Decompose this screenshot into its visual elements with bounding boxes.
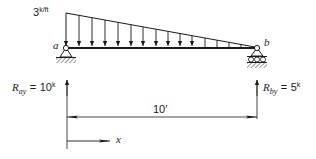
load-unit: k/ft — [39, 6, 48, 13]
reaction-a-unit: k — [52, 81, 56, 88]
reaction-b-value: 5 — [291, 81, 297, 93]
ground-hatch — [247, 63, 267, 68]
load-envelope-top — [66, 13, 255, 47]
load-magnitude-label: 3k/ft — [33, 7, 48, 18]
reaction-a-subscript: ay — [19, 87, 27, 96]
reaction-a-value: 10 — [40, 81, 52, 93]
reaction-a-label: Ray = 10k — [12, 82, 55, 96]
reaction-b-label: Rby = 5k — [263, 82, 300, 96]
reaction-b-unit: k — [297, 81, 301, 88]
beam-diagram — [0, 0, 316, 159]
reaction-b-subscript: by — [270, 87, 278, 96]
distributed-load — [66, 13, 255, 47]
reaction-a-symbol: R — [12, 81, 19, 93]
roller-icon — [261, 57, 266, 62]
roller-icon — [255, 57, 260, 62]
ground-hatch — [56, 58, 76, 63]
reaction-a-equals: = — [30, 81, 36, 93]
support-a-label: a — [53, 40, 59, 51]
x-axis-label: x — [116, 134, 121, 145]
reaction-b-symbol: R — [263, 81, 270, 93]
reaction-b-equals: = — [281, 81, 287, 93]
dimension-label: 10′ — [153, 104, 167, 115]
roller-icon — [249, 57, 254, 62]
support-b-label: b — [264, 37, 270, 48]
